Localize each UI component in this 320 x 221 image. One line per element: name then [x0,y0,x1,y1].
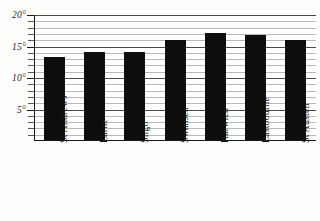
x-axis-baseline [34,140,316,141]
x-axis-tick-label: Sligo [139,121,150,143]
y-axis-tick-label: 10° [12,73,26,83]
x-axis-tick-label: Eastbourne [260,97,271,143]
x-axis-tick-label: Swansea [179,107,190,143]
x-axis-tick-label: St Austell [300,103,311,143]
x-axis-tick-label: St Andrews [58,96,69,143]
bars-layer [34,15,316,141]
y-axis-tick-label: 20° [12,10,26,20]
y-axis-tick-label: 15° [12,42,26,52]
y-axis-tick-label: 5° [17,105,26,115]
x-axis: St AndrewsLarneSligoSwanseaHarwichEastbo… [34,143,316,221]
bar-chart-figure: 20°15°10°5° St AndrewsLarneSligoSwanseaH… [0,0,320,221]
y-axis: 20°15°10°5° [0,0,34,160]
x-axis-tick-label: Larne [98,119,109,143]
x-axis-tick-label: Harwich [219,108,230,143]
